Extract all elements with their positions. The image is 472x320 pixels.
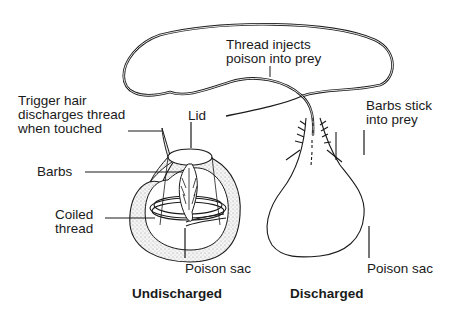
label-poison-sac-right: Poison sac (367, 262, 433, 276)
caption-discharged: Discharged (290, 287, 364, 301)
label-poison-sac-left: Poison sac (185, 262, 251, 276)
label-barbs-stick: Barbs stick into prey (366, 99, 432, 127)
label-coiled-thread: Coiled thread (55, 208, 93, 236)
label-thread-injects: Thread injects poison into prey (226, 38, 321, 66)
discharged-capsule (267, 118, 364, 257)
caption-undischarged: Undischarged (132, 287, 222, 301)
label-lid: Lid (188, 109, 206, 123)
label-trigger-hair: Trigger hair discharges thread when touc… (18, 94, 125, 136)
label-barbs: Barbs (37, 165, 72, 179)
